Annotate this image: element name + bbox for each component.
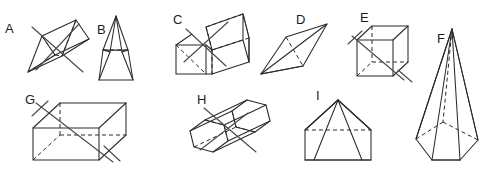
shape-e-top-right-edge bbox=[393, 26, 408, 40]
shape-e-cube bbox=[348, 26, 412, 82]
shape-label-g: G bbox=[25, 92, 35, 107]
shape-a-hidden-edge-1 bbox=[55, 55, 62, 56]
shape-g-top-left-edge bbox=[33, 103, 60, 128]
shape-h-tilted-hexagonal-prism bbox=[190, 100, 270, 152]
shape-g-bottom-right-edge bbox=[99, 135, 126, 160]
shape-f-tall-hexagonal-pyramid bbox=[416, 29, 478, 160]
shape-b-base-body bbox=[99, 50, 133, 80]
solids-figure: A B C D E F G H I bbox=[0, 0, 485, 172]
shape-e-bottom-right-edge bbox=[393, 62, 408, 76]
shape-c-tilted-cube-prism bbox=[176, 14, 249, 74]
shape-label-b: B bbox=[97, 22, 106, 37]
shape-label-i: I bbox=[316, 88, 320, 103]
shape-a-tilted-triangular-prism bbox=[28, 20, 89, 72]
shape-c-front-top-left-edge bbox=[176, 34, 192, 45]
shape-label-f: F bbox=[437, 31, 445, 46]
shape-label-a: A bbox=[5, 21, 14, 36]
shape-label-e: E bbox=[360, 10, 369, 25]
shape-d-flat-tetrahedron bbox=[261, 24, 327, 74]
shape-f-outline bbox=[416, 29, 478, 160]
shape-i-square-pyramid bbox=[305, 100, 371, 160]
shape-g-rectangular-prism bbox=[32, 101, 126, 162]
shape-g-top-right-edge bbox=[99, 103, 126, 128]
geometric-solids-worksheet: A B C D E F G H I bbox=[0, 0, 485, 172]
shape-c-lower-right-edge bbox=[212, 62, 249, 74]
shape-label-h: H bbox=[197, 92, 206, 107]
shape-label-d: D bbox=[296, 12, 305, 27]
shape-label-c: C bbox=[173, 12, 182, 27]
